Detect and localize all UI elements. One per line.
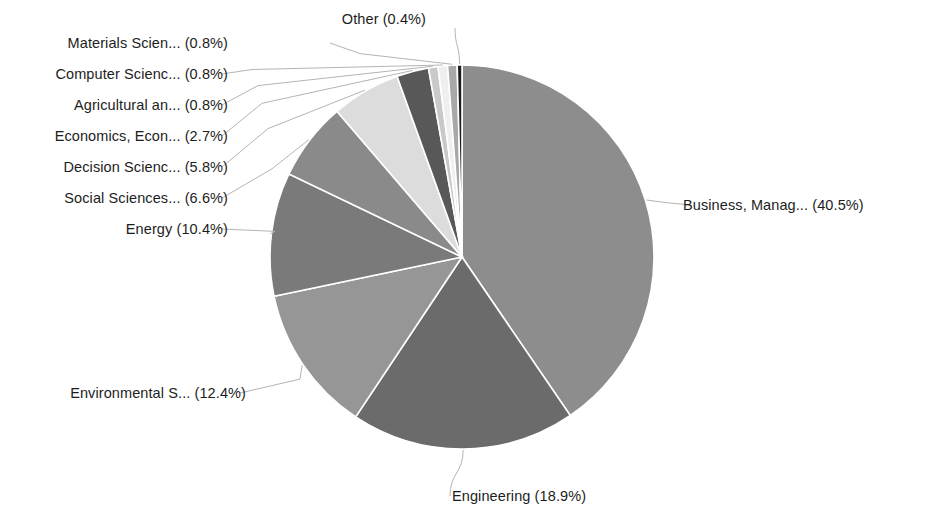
pie-label-economics: Economics, Econ... (2.7%) — [55, 129, 228, 144]
pie-label-energy: Energy (10.4%) — [126, 222, 228, 237]
pie-label-other: Other (0.4%) — [342, 12, 426, 27]
pie-chart: Business, Manag... (40.5%)Engineering (1… — [0, 0, 946, 531]
leader-line — [455, 28, 460, 64]
pie-slices: Business, Manag... (40.5%)Engineering (1… — [270, 65, 654, 449]
pie-label-materials-science: Materials Scien... (0.8%) — [68, 36, 228, 51]
pie-label-business: Business, Manag... (40.5%) — [683, 198, 864, 213]
pie-label-environmental: Environmental S... (12.4%) — [70, 386, 246, 401]
leader-line — [240, 365, 302, 393]
pie-label-agricultural: Agricultural an... (0.8%) — [74, 98, 228, 113]
pie-label-social-sciences: Social Sciences... (6.6%) — [64, 191, 228, 206]
leader-line — [330, 43, 452, 64]
pie-label-decision-sciences: Decision Scienc... (5.8%) — [64, 160, 228, 175]
pie-label-engineering: Engineering (18.9%) — [452, 489, 586, 504]
leader-line — [222, 229, 275, 234]
pie-label-computer-science: Computer Scienc... (0.8%) — [55, 67, 228, 82]
